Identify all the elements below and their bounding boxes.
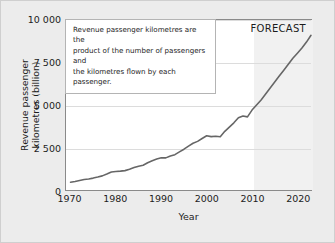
x-tick-label: 1990 bbox=[149, 193, 173, 204]
x-axis-tick-labels: 197019801990200020102020 bbox=[65, 193, 312, 207]
x-tick-label: 2010 bbox=[240, 193, 264, 204]
y-tick-label: 0 bbox=[1, 186, 61, 197]
chart-figure: Revenue passenger kilometres (billion) 0… bbox=[0, 0, 335, 243]
x-tick-label: 2020 bbox=[286, 193, 310, 204]
x-axis-title: Year bbox=[65, 211, 312, 222]
x-tick-label: 1980 bbox=[103, 193, 127, 204]
forecast-label: FORECAST bbox=[250, 23, 306, 34]
x-tick-label: 1970 bbox=[57, 193, 81, 204]
y-tick-label: 7 500 bbox=[1, 57, 61, 68]
x-tick-label: 2000 bbox=[195, 193, 219, 204]
definition-note-text: Revenue passenger kilometres are the pro… bbox=[73, 25, 209, 88]
y-axis-tick-labels: 02 5005 0007 50010 000 bbox=[1, 19, 61, 191]
y-tick-label: 2 500 bbox=[1, 143, 61, 154]
y-tick-label: 10 000 bbox=[1, 14, 61, 25]
definition-note-box: Revenue passenger kilometres are the pro… bbox=[65, 19, 216, 94]
y-tick-label: 5 000 bbox=[1, 100, 61, 111]
